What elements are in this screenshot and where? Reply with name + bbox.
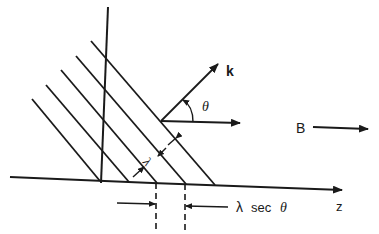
lambda-arrow-lower (133, 167, 144, 177)
dimension-arrow-left (117, 203, 155, 204)
z-axis (10, 177, 152, 183)
k-label: k (226, 63, 234, 79)
wavefront-2 (46, 85, 129, 182)
k-vector-arrow (161, 64, 218, 121)
wavefronts (32, 41, 215, 185)
b-field-arrow (313, 127, 368, 129)
lambda-sec-symbol: λ (236, 199, 243, 215)
dimension-arrow-right (186, 206, 228, 207)
b-field-label: B (296, 120, 305, 136)
wavefront-5 (91, 41, 215, 185)
lambda-sec-theta: θ (280, 200, 287, 215)
horizontal-reference-arrow (161, 121, 240, 123)
lambda-arrow-upper-2 (168, 138, 176, 145)
z-axis-extension (152, 183, 342, 190)
lambda-sec-text: sec (251, 200, 272, 215)
theta-angle-arc (183, 100, 193, 122)
lambda-label: λ (139, 154, 155, 170)
wave-diagram: k θ B λ λ sec θ z (0, 0, 379, 234)
wavefront-4 (76, 56, 186, 184)
wavefront-1 (32, 99, 100, 181)
z-axis-label: z (336, 199, 343, 214)
theta-label: θ (202, 99, 209, 114)
